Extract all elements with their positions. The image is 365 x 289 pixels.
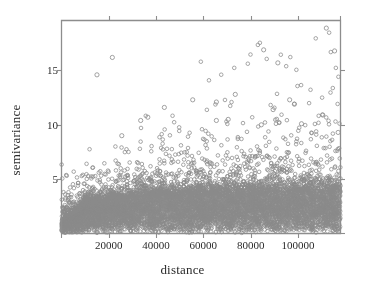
x-tick-label: 60000 (190, 239, 218, 251)
y-tick-label: 10 (47, 119, 58, 131)
y-axis-title: semivariance (8, 80, 24, 200)
x-tick-label: 40000 (142, 239, 170, 251)
y-tick-label: 15 (47, 64, 58, 76)
y-tick-label: 5 (53, 173, 59, 185)
x-tick-label: 80000 (237, 239, 265, 251)
x-tick-label: 20000 (95, 239, 123, 251)
x-tick-label: 100000 (281, 239, 314, 251)
semivariogram-figure: distance semivariance 200004000060000800… (0, 0, 365, 289)
x-axis-title: distance (0, 262, 365, 278)
